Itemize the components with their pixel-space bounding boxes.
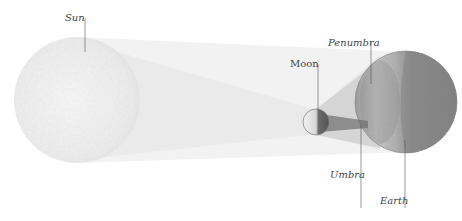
earth-label: Earth	[380, 195, 409, 207]
umbra-label: Umbra	[330, 169, 365, 181]
penumbra-label: Penumbra	[328, 37, 380, 49]
moon-label: Moon	[290, 58, 319, 70]
diagram-canvas	[0, 0, 462, 221]
eclipse-diagram: Sun Moon Penumbra Umbra Earth	[0, 0, 462, 221]
penumbra-shadow	[360, 60, 400, 144]
sun	[14, 37, 140, 163]
moon	[303, 109, 329, 135]
sun-label: Sun	[65, 12, 85, 24]
